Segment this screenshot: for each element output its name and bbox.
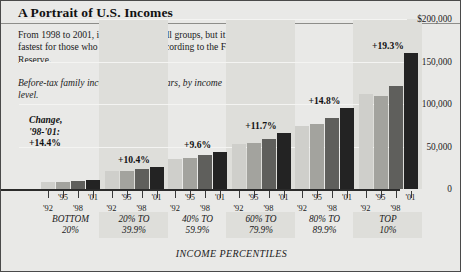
y-axis-tick-label: 100,000 bbox=[422, 99, 452, 109]
x-axis-tick bbox=[396, 191, 397, 198]
category-label-line: 59.9% bbox=[182, 225, 213, 236]
x-axis-tick-label: '98 bbox=[137, 204, 147, 213]
x-axis-tick-label: '92 bbox=[43, 204, 53, 213]
bar bbox=[374, 96, 388, 190]
bar bbox=[56, 182, 70, 189]
bar bbox=[262, 139, 276, 189]
x-axis-tick-label: '92 bbox=[361, 204, 371, 213]
x-axis-tick bbox=[78, 191, 79, 198]
category-label-line: 10% bbox=[379, 225, 396, 236]
category-label-line: 20% TO bbox=[118, 214, 149, 225]
x-axis-tick bbox=[142, 191, 143, 198]
x-axis-tick bbox=[112, 191, 113, 198]
x-axis-tick bbox=[302, 191, 303, 198]
x-axis-line bbox=[0, 189, 400, 191]
bar bbox=[404, 53, 418, 189]
x-axis-tick-label: '98 bbox=[73, 204, 83, 213]
category-label-line: 79.9% bbox=[245, 225, 276, 236]
bar bbox=[41, 182, 55, 189]
bar bbox=[310, 124, 324, 189]
bar bbox=[213, 152, 227, 189]
x-axis-tick-label: '92 bbox=[297, 204, 307, 213]
bar-group bbox=[232, 19, 291, 189]
y-axis-tick-label: 0 bbox=[447, 184, 452, 194]
x-axis-tick bbox=[175, 191, 176, 198]
change-annotation: +10.4% bbox=[104, 154, 164, 165]
bar bbox=[168, 159, 182, 189]
bar bbox=[183, 158, 197, 189]
bar bbox=[325, 118, 339, 189]
category-label: BOTTOM20% bbox=[52, 214, 89, 236]
bar bbox=[135, 169, 149, 189]
x-axis-tick bbox=[332, 191, 333, 198]
change-annotation: +19.3% bbox=[358, 40, 418, 51]
x-axis-tick-label: '01 bbox=[152, 193, 162, 202]
category-label-line: BOTTOM bbox=[52, 214, 89, 225]
bar-group bbox=[41, 19, 100, 189]
y-axis-tick-label: 150,000 bbox=[422, 57, 452, 67]
x-axis-tick bbox=[269, 191, 270, 198]
category-label: 40% TO59.9% bbox=[182, 214, 213, 236]
x-axis-tick-label: '92 bbox=[234, 204, 244, 213]
category-label-line: 80% TO bbox=[309, 214, 340, 225]
change-annotation: +9.6% bbox=[168, 139, 228, 150]
bar bbox=[340, 108, 354, 189]
bar bbox=[120, 171, 134, 189]
bar bbox=[105, 171, 119, 189]
change-annotation: +11.7% bbox=[231, 120, 291, 131]
x-axis-tick-label: '01 bbox=[88, 193, 98, 202]
category-label-line: 40% TO bbox=[182, 214, 213, 225]
x-axis-tick-label: '98 bbox=[391, 204, 401, 213]
bar bbox=[295, 126, 309, 189]
bar bbox=[277, 133, 291, 189]
x-axis-tick-label: '01 bbox=[406, 193, 416, 202]
x-axis-tick-label: '92 bbox=[107, 204, 117, 213]
x-axis-tick-label: '95 bbox=[185, 193, 195, 202]
category-label-line: 89.9% bbox=[309, 225, 340, 236]
category-label: 80% TO89.9% bbox=[309, 214, 340, 236]
y-axis-tick-label: 50,000 bbox=[426, 142, 452, 152]
x-axis-tick bbox=[366, 191, 367, 198]
bar-group bbox=[168, 19, 227, 189]
category-label: 20% TO39.9% bbox=[118, 214, 149, 236]
bar bbox=[71, 181, 85, 189]
category-label-line: 39.9% bbox=[118, 225, 149, 236]
income-chart-figure: A Portrait of U.S. Incomes From 1998 to … bbox=[0, 0, 461, 272]
x-axis-tick-label: '98 bbox=[327, 204, 337, 213]
bar bbox=[247, 143, 261, 189]
x-axis-tick bbox=[205, 191, 206, 198]
x-axis-tick-label: '01 bbox=[279, 193, 289, 202]
category-label-line: 60% TO bbox=[245, 214, 276, 225]
category-label-line: 20% bbox=[52, 225, 89, 236]
bar bbox=[389, 86, 403, 189]
y-axis-tick-label: $200,000 bbox=[417, 14, 452, 24]
bar bbox=[198, 155, 212, 189]
x-axis-label: INCOME PERCENTILES bbox=[1, 248, 461, 259]
x-axis-tick-label: '95 bbox=[312, 193, 322, 202]
x-axis-tick-label: '01 bbox=[215, 193, 225, 202]
category-label: TOP10% bbox=[379, 214, 396, 236]
x-axis-tick-label: '95 bbox=[249, 193, 259, 202]
x-axis-tick bbox=[48, 191, 49, 198]
bar bbox=[150, 167, 164, 189]
category-label: 60% TO79.9% bbox=[245, 214, 276, 236]
change-annotation: +14.8% bbox=[295, 95, 355, 106]
x-axis-tick-label: '98 bbox=[200, 204, 210, 213]
bar bbox=[359, 94, 373, 189]
bar bbox=[86, 180, 100, 189]
x-axis-tick-label: '01 bbox=[342, 193, 352, 202]
x-axis-tick-label: '95 bbox=[58, 193, 68, 202]
x-axis-tick-label: '95 bbox=[376, 193, 386, 202]
x-axis-tick bbox=[239, 191, 240, 198]
x-axis-tick-label: '92 bbox=[170, 204, 180, 213]
category-label-line: TOP bbox=[379, 214, 396, 225]
x-axis-tick-label: '95 bbox=[122, 193, 132, 202]
x-axis-tick-label: '98 bbox=[264, 204, 274, 213]
bar bbox=[232, 144, 246, 189]
